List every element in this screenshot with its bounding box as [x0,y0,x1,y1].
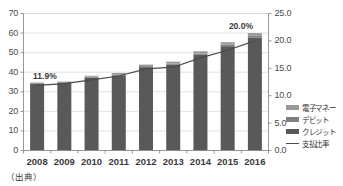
x-axis-tick-2013: 2013 [159,156,187,167]
y-axis-left-tick: 0 [2,145,18,155]
y-axis-left-tick: 10 [2,125,18,135]
legend-item-payment-ratio: 支払比率 [286,138,343,149]
y-axis-left-tick: 30 [2,86,18,96]
legend-label-payment-ratio: 支払比率 [302,138,329,149]
legend-label-credit: クレジット [302,126,336,137]
x-axis-tick-2016: 2016 [241,156,269,167]
legend-item-debit: デビット [286,114,343,125]
x-axis-tick-2015: 2015 [214,156,242,167]
data-label-2016: 20.0% [229,21,253,31]
legend-label-debit: デビット [302,114,329,125]
legend-item-credit: クレジット [286,126,343,137]
x-axis-tick-2014: 2014 [186,156,214,167]
chart-legend: 電子マネー デビット クレジット 支払比率 [286,102,343,150]
y-axis-right-tick: 20.0 [275,35,299,45]
y-axis-left-tick: 20 [2,106,18,116]
y-axis-right-tick: 15.0 [275,63,299,73]
data-label-2008: 11.9% [33,71,57,81]
x-axis-tick-2008: 2008 [23,156,51,167]
y-axis-right-tick: 10.0 [275,90,299,100]
legend-label-denshi-money: 電子マネー [302,102,336,113]
y-axis-left-tick: 70 [2,8,18,18]
x-axis-tick-2011: 2011 [105,156,133,167]
legend-swatch-debit [286,117,299,122]
x-axis-tick-2009: 2009 [50,156,78,167]
source-note: （出典） [6,170,42,182]
y-axis-right-tick: 25.0 [275,8,299,18]
x-axis-tick-2010: 2010 [78,156,106,167]
y-axis-left-tick: 60 [2,28,18,38]
y-axis-left-tick: 40 [2,67,18,77]
legend-line-payment-ratio [286,143,299,144]
legend-item-denshi-money: 電子マネー [286,102,343,113]
legend-swatch-credit [286,129,299,134]
legend-swatch-denshi-money [286,105,299,110]
x-axis-tick-2012: 2012 [132,156,160,167]
y-axis-left-tick: 50 [2,47,18,57]
chart-container: 706050403020100 25.020.015.010.05.00.0 2… [0,0,343,186]
